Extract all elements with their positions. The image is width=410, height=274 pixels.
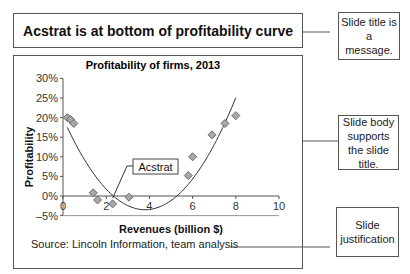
data-point-marker [189, 153, 197, 161]
chart-overlay: Profitability of firms, 2013 30%25%20%15… [0, 0, 410, 274]
data-point-marker [232, 112, 240, 120]
data-point-marker [208, 131, 216, 139]
data-point-marker [125, 193, 133, 201]
x-tick-label: 4 [146, 200, 152, 212]
y-axis-label: Profitability [23, 126, 35, 187]
acstrat-label: Acstrat [138, 161, 172, 173]
x-tick-label: 2 [103, 200, 109, 212]
y-tick-label: 0% [42, 190, 58, 202]
y-tick-label: 25% [36, 92, 58, 104]
x-tick-label: 10 [273, 200, 285, 212]
y-tick-label: 15% [36, 131, 58, 143]
y-tick-label: –5% [36, 210, 58, 222]
connectors [303, 32, 338, 141]
data-point-marker [184, 172, 192, 180]
x-axis-ticks: 0246810 [60, 196, 285, 212]
x-tick-label: 8 [233, 200, 239, 212]
x-axis-label: Revenues (billion $) [119, 223, 223, 235]
source-text: Source: Lincoln Information, team analys… [31, 238, 239, 250]
x-tick-label: 0 [60, 200, 66, 212]
y-axis-ticks: 30%25%20%15%10%5%0%–5% [36, 72, 63, 221]
y-tick-label: 30% [36, 72, 58, 84]
data-point-marker [94, 196, 102, 204]
data-point-marker [221, 119, 229, 127]
acstrat-leader-line [113, 166, 133, 198]
chart-title: Profitability of firms, 2013 [86, 59, 220, 71]
y-tick-label: 5% [42, 170, 58, 182]
y-tick-label: 20% [36, 112, 58, 124]
y-tick-label: 10% [36, 151, 58, 163]
x-tick-label: 6 [190, 200, 196, 212]
data-point-marker [109, 200, 117, 208]
